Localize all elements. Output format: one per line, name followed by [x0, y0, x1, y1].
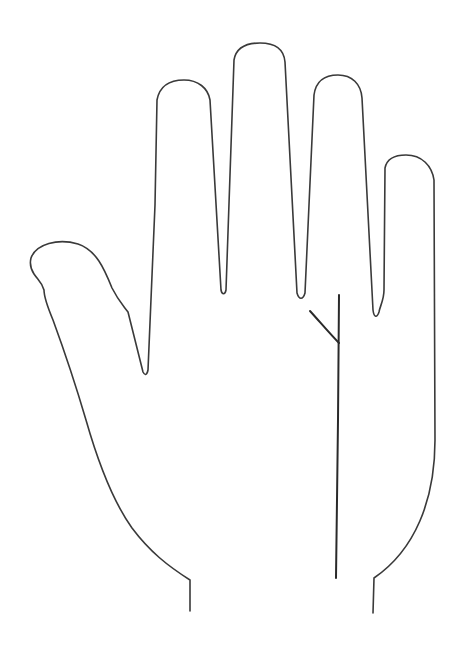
hand-outline	[30, 43, 435, 613]
fate-line	[336, 295, 339, 578]
palm-diagram: Palm outline with fate line	[0, 0, 468, 646]
hand-drawing	[0, 0, 468, 646]
fate-line-branch	[310, 311, 339, 343]
